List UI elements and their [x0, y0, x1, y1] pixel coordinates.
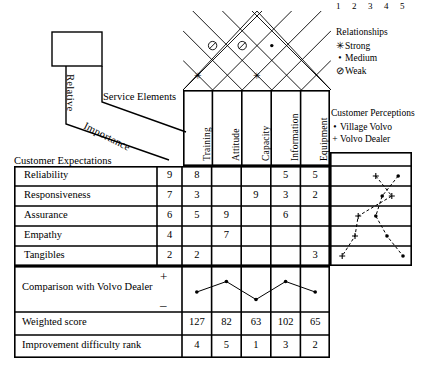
strong-icon: ✳ — [336, 40, 344, 53]
weighted-score-value: 127 — [182, 316, 212, 327]
matrix-cell: 9 — [241, 189, 271, 200]
weak-icon: ⊘ — [336, 65, 344, 78]
relationships-legend-title: Relationships — [336, 26, 388, 39]
service-element-header-training: Training — [202, 127, 212, 161]
expectation-reliability: Reliability — [24, 169, 68, 180]
legend-item-village-volvo: • Village Volvo — [331, 121, 415, 134]
expectation-responsiveness: Responsiveness — [24, 189, 91, 200]
correlation-roof: ✳✳ — [183, 11, 331, 90]
weighted-score-label: Weighted score — [22, 316, 87, 327]
improvement-rank-label: Improvement difficulty rank — [22, 339, 141, 350]
matrix-cell: 9 — [212, 209, 242, 220]
customer-perception-chart — [330, 152, 412, 266]
perception-scale-5: 5 — [400, 1, 405, 11]
matrix-cell: 2 — [300, 189, 330, 200]
improvement-rank-value: 2 — [300, 339, 330, 350]
plus-sign: + — [160, 270, 167, 283]
matrix-cell: 5 — [300, 169, 330, 180]
service-element-header-equipment: Equipment — [319, 118, 329, 162]
perception-scale-2: 2 — [352, 1, 357, 11]
empty-top-box — [52, 32, 102, 66]
relative-importance-block — [0, 10, 200, 170]
weighted-score-value: 102 — [271, 316, 301, 327]
relative-importance-value: 6 — [157, 209, 182, 220]
legend-label-volvo-dealer: Volvo Dealer — [340, 134, 390, 144]
matrix-cell: 5 — [271, 169, 301, 180]
relative-label: Relative — [65, 74, 76, 111]
expectation-assurance: Assurance — [24, 209, 68, 220]
matrix-cell: 3 — [182, 189, 212, 200]
expectation-empathy: Empathy — [24, 229, 62, 240]
improvement-rank-value: 1 — [241, 339, 271, 350]
relative-importance-value: 7 — [157, 189, 182, 200]
matrix-cell: 8 — [182, 169, 212, 180]
expectation-tangibles: Tangibles — [24, 249, 65, 260]
relationships-legend: Relationships ✳ Strong • Medium ⊘ Weak — [336, 26, 388, 77]
improvement-rank-value: 5 — [212, 339, 242, 350]
relative-importance-value: 9 — [157, 169, 182, 180]
relative-importance-value: 2 — [157, 249, 182, 260]
perception-scale-3: 3 — [368, 1, 373, 11]
matrix-cell: 7 — [212, 229, 242, 240]
comparison-label: Comparison with Volvo Dealer — [22, 281, 153, 292]
house-of-quality-diagram: Relative Importance Service Elements Cus… — [0, 0, 430, 370]
relative-importance-value: 4 — [157, 229, 182, 240]
weighted-score-value: 63 — [241, 316, 271, 327]
legend-label-strong: Strong — [345, 41, 370, 51]
service-element-header-information: Information — [290, 113, 300, 161]
service-elements-label: Service Elements — [103, 91, 176, 102]
perceptions-legend-title: Customer Perceptions — [331, 107, 415, 120]
matrix-cell: 3 — [300, 249, 330, 260]
perception-scale-4: 4 — [384, 1, 389, 11]
svg-text:✳: ✳ — [194, 71, 202, 81]
improvement-rank-value: 4 — [182, 339, 212, 350]
matrix-cell: 6 — [271, 209, 301, 220]
legend-item-strong: ✳ Strong — [336, 40, 388, 53]
perceptions-legend: Customer Perceptions • Village Volvo + V… — [331, 107, 415, 146]
matrix-cell: 3 — [271, 189, 301, 200]
legend-item-weak: ⊘ Weak — [336, 65, 388, 78]
legend-item-medium: • Medium — [336, 52, 388, 65]
service-element-header-attitude: Attitude — [231, 128, 241, 161]
improvement-rank-value: 3 — [271, 339, 301, 350]
matrix-cell: 2 — [182, 249, 212, 260]
legend-label-weak: Weak — [345, 66, 366, 76]
legend-label-medium: Medium — [345, 53, 377, 63]
medium-icon: • — [336, 52, 344, 65]
matrix-cell: 5 — [182, 209, 212, 220]
weighted-score-value: 65 — [300, 316, 330, 327]
perception-scale-1: 1 — [336, 1, 341, 11]
svg-text:✳: ✳ — [253, 71, 261, 81]
volvo-dealer-icon: + — [331, 133, 339, 146]
weighted-score-value: 82 — [212, 316, 242, 327]
customer-expectations-label: Customer Expectations — [14, 155, 112, 166]
service-element-header-capacity: Capacity — [261, 126, 271, 161]
legend-item-volvo-dealer: + Volvo Dealer — [331, 133, 415, 146]
village-volvo-icon: • — [331, 121, 339, 134]
legend-label-village-volvo: Village Volvo — [340, 122, 392, 132]
minus-sign: – — [160, 298, 167, 311]
